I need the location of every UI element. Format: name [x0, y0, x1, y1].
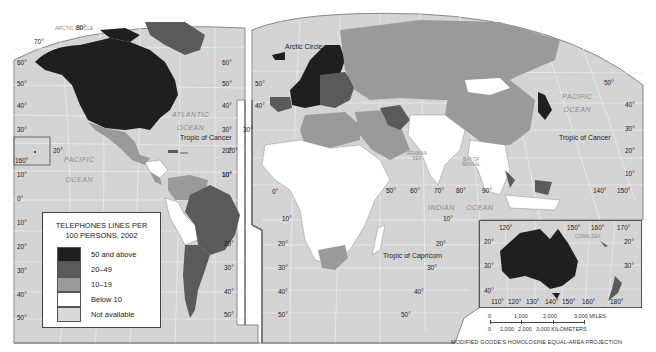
- lat-label: 80°: [76, 24, 86, 31]
- arctic-circle-label: Arctic Circle: [285, 43, 322, 50]
- lat-label: 60°: [222, 59, 232, 66]
- pacific-ocean-right-label: PACIFIC OCEAN: [562, 90, 593, 116]
- legend-swatch: [57, 247, 81, 262]
- legend-label: Below 10: [91, 295, 122, 304]
- lat-label: 50°: [278, 311, 288, 318]
- pacific-left-label-2: OCEAN: [64, 170, 95, 190]
- scale-tick: [553, 320, 554, 324]
- lat-label: 20°: [436, 240, 446, 247]
- lat-label: 10°: [282, 215, 292, 222]
- lat-label: 50°: [255, 80, 265, 87]
- lon-label: 170°: [617, 224, 630, 231]
- legend-title-line2: 100 PERSONS, 2002: [43, 231, 160, 241]
- lon-label: 50°: [386, 187, 396, 194]
- atlantic-label-2: OCEAN: [172, 121, 209, 134]
- scale-line: [490, 322, 585, 323]
- lon-label: 180°: [610, 298, 623, 305]
- projection-label: MODIFIED GOODE'S HOMOLOSINE EQUAL-AREA P…: [451, 339, 622, 345]
- australia-inset: [479, 220, 642, 308]
- lat-label: 20°: [53, 147, 63, 154]
- scale-km-label: 0: [488, 326, 491, 332]
- legend-swatch: [57, 262, 81, 277]
- arabian-sea-label: ARABIAN SEA: [407, 151, 427, 161]
- lat-label: 40°: [222, 102, 232, 109]
- lat-label: 30°: [17, 126, 27, 133]
- lon-label: 120°: [499, 224, 512, 231]
- legend-item-50-above: 50 and above: [57, 247, 157, 262]
- legend-label: 50 and above: [91, 250, 136, 259]
- lat-label: 20°: [624, 238, 634, 245]
- lat-label: 40°: [17, 291, 27, 298]
- legend-label: Not available: [91, 310, 134, 319]
- legend-swatch: [57, 307, 81, 322]
- lon-label: 80°: [456, 187, 466, 194]
- legend-label: 20–49: [91, 265, 112, 274]
- lon-label: 120°: [508, 298, 521, 305]
- coral-sea-label: CORAL SEA: [575, 234, 601, 239]
- australia-map: [480, 221, 641, 307]
- lon-label: 150°: [617, 187, 630, 194]
- lat-label: 10°: [17, 171, 27, 178]
- tropic-capricorn-label: Tropic of Capricorn: [383, 252, 442, 259]
- arabian-label-2: SEA: [407, 156, 427, 161]
- scale-miles-label: 3,000 MILES: [574, 313, 606, 319]
- legend: TELEPHONES LINES PER 100 PERSONS, 2002 5…: [42, 212, 161, 328]
- lat-label: 60°: [17, 59, 27, 66]
- legend-item-20-49: 20–49: [57, 262, 157, 277]
- scale-miles-label: 1,000: [514, 313, 528, 319]
- lat-label: 30°: [222, 126, 232, 133]
- lon-label: 160°: [582, 298, 595, 305]
- indian-ocean-label-1: INDIAN: [428, 201, 455, 214]
- lon-label: 60°: [410, 187, 420, 194]
- lat-label: 40°: [255, 102, 265, 109]
- lat-label: 30°: [17, 267, 27, 274]
- legend-swatch: [57, 277, 81, 292]
- australia: [500, 229, 578, 289]
- lon-label: 160°: [15, 157, 28, 164]
- lat-label: 20°: [625, 147, 635, 154]
- atlantic-ocean-label: ATLANTIC OCEAN: [172, 108, 209, 134]
- lat-label: 30°: [625, 125, 635, 132]
- lon-label: 140°: [593, 187, 606, 194]
- scale-km-label: 1,000: [500, 326, 514, 332]
- tropic-cancer-left-label: Tropic of Cancer: [180, 134, 231, 141]
- lat-label: 40°: [414, 288, 424, 295]
- lon-label: 110°: [491, 298, 504, 305]
- lon-label: 70°: [434, 187, 444, 194]
- scale-tick: [490, 320, 491, 324]
- scale-miles-label: 2,000: [543, 313, 557, 319]
- lat-label: 30°: [224, 264, 234, 271]
- pacific-right-label-1: PACIFIC: [562, 90, 593, 103]
- legend-title: TELEPHONES LINES PER 100 PERSONS, 2002: [43, 221, 160, 241]
- legend-label: 10–19: [91, 280, 112, 289]
- scale-miles-label: 0: [488, 313, 491, 319]
- scale-tick: [521, 320, 522, 324]
- indian-ocean-label-2: OCEAN: [466, 201, 493, 214]
- lat-label: 40°: [625, 101, 635, 108]
- legend-item-10-19: 10–19: [57, 277, 157, 292]
- arctic-circle-faint-label: ARCTIC CIRCLE: [55, 26, 93, 31]
- lon-label: 160°: [591, 224, 604, 231]
- lat-label: 40°: [484, 287, 494, 294]
- lat-label: 20°: [228, 147, 238, 154]
- legend-item-not-available: Not available: [57, 307, 157, 322]
- lat-label: 20°: [278, 240, 288, 247]
- scale-km-label: 3,000 KILOMETERS: [536, 326, 587, 332]
- lat-label: 40°: [278, 288, 288, 295]
- lon-label: 140°: [545, 298, 558, 305]
- lat-label: 10°: [625, 170, 635, 177]
- lat-label: 70°: [34, 38, 44, 45]
- lat-label: 50°: [224, 311, 234, 318]
- legend-item-below-10: Below 10: [57, 292, 157, 307]
- lat-label: 50°: [17, 314, 27, 321]
- lat-label: 50°: [401, 311, 411, 318]
- lat-label: 30°: [624, 262, 634, 269]
- atlantic-label-1: ATLANTIC: [172, 108, 209, 121]
- lon-label: 90°: [482, 187, 492, 194]
- lon-label: 0°: [272, 188, 278, 195]
- lat-label: 50°: [222, 80, 232, 87]
- lat-label: 10°: [443, 215, 453, 222]
- lat-label: 40°: [17, 102, 27, 109]
- lat-label: 20°: [224, 240, 234, 247]
- lat-label: 50°: [604, 79, 614, 86]
